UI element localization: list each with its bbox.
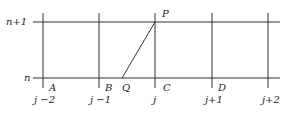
point-label-B: B bbox=[104, 82, 112, 93]
column-label-j-plus-1: j+1 bbox=[203, 94, 223, 105]
point-label-Q: Q bbox=[122, 82, 130, 93]
grid-diagram: n+1 n A B Q C D P j −2 j −1 j j+1 j+2 bbox=[0, 0, 298, 113]
point-label-P: P bbox=[161, 8, 169, 19]
column-label-j-plus-2: j+2 bbox=[260, 94, 280, 105]
characteristic-line-QP bbox=[122, 22, 155, 78]
column-label-j-minus-1: j −1 bbox=[88, 94, 111, 105]
row-label-bottom: n bbox=[24, 72, 30, 83]
column-label-j: j bbox=[151, 94, 156, 105]
point-label-D: D bbox=[217, 82, 226, 93]
point-label-C: C bbox=[163, 82, 171, 93]
row-label-top: n+1 bbox=[6, 16, 27, 27]
point-label-A: A bbox=[48, 82, 56, 93]
column-label-j-minus-2: j −2 bbox=[32, 94, 55, 105]
